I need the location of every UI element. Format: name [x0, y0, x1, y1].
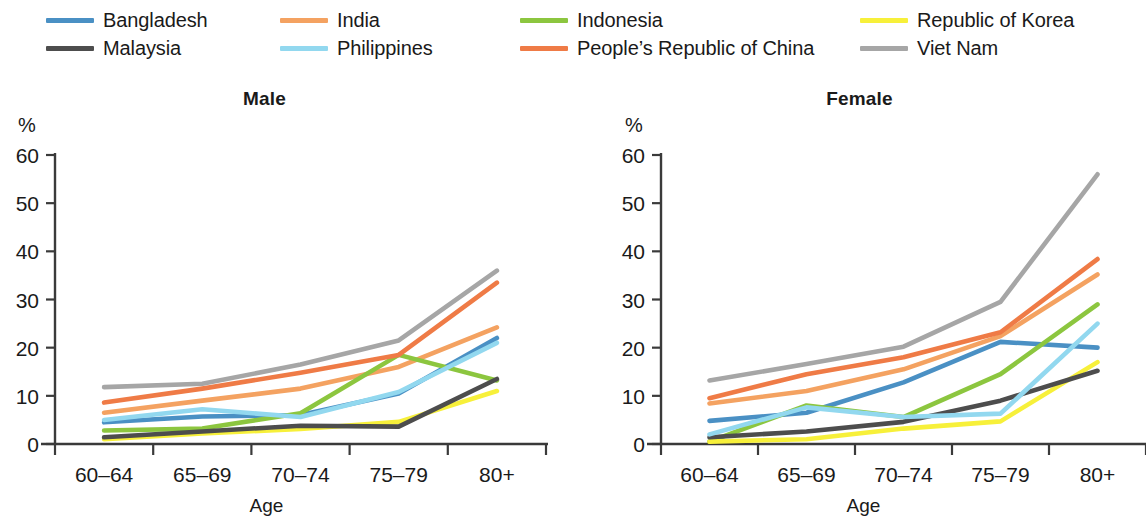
- legend-swatch-india: [280, 18, 328, 23]
- legend-swatch-peoples-republic-of-china: [520, 46, 568, 51]
- plot-area-female: 010203040506060–6465–6970–7475–7980+: [573, 86, 1146, 519]
- series-line-bangladesh: [710, 342, 1098, 421]
- legend-label-philippines: Philippines: [337, 38, 433, 58]
- legend-item-indonesia: Indonesia: [520, 10, 860, 30]
- legend-item-republic-of-korea: Republic of Korea: [860, 10, 1140, 30]
- legend-item-peoples-republic-of-china: People’s Republic of China: [520, 38, 860, 58]
- legend-label-viet-nam: Viet Nam: [917, 38, 998, 58]
- y-tick-label: 50: [622, 192, 645, 215]
- x-tick-label: 70–74: [271, 463, 330, 486]
- series-line-viet-nam: [710, 174, 1098, 380]
- legend-item-bangladesh: Bangladesh: [46, 10, 280, 30]
- legend-swatch-philippines: [280, 46, 328, 51]
- legend-item-malaysia: Malaysia: [46, 38, 280, 58]
- x-tick-label: 70–74: [874, 463, 933, 486]
- x-tick-label: 60–64: [75, 463, 134, 486]
- y-tick-label: 50: [16, 192, 39, 215]
- legend-row: Malaysia Philippines People’s Republic o…: [0, 34, 1146, 62]
- chart-panel-female: Female % 010203040506060–6465–6970–7475–…: [573, 86, 1146, 519]
- y-tick-label: 40: [16, 240, 39, 263]
- legend-swatch-malaysia: [46, 46, 94, 51]
- legend-label-india: India: [337, 10, 380, 30]
- series-line-republic-of-korea: [710, 362, 1098, 441]
- x-tick-label: 65–69: [777, 463, 835, 486]
- legend-label-malaysia: Malaysia: [103, 38, 181, 58]
- legend-label-bangladesh: Bangladesh: [103, 10, 208, 30]
- legend-swatch-indonesia: [520, 18, 568, 23]
- y-tick-label: 20: [16, 337, 39, 360]
- x-tick-label: 75–79: [369, 463, 427, 486]
- y-tick-label: 10: [16, 385, 39, 408]
- x-axis-title-male: Age: [0, 495, 553, 517]
- x-tick-label: 60–64: [680, 463, 739, 486]
- series-line-philippines: [710, 324, 1098, 435]
- legend-item-viet-nam: Viet Nam: [860, 38, 1140, 58]
- legend-item-india: India: [280, 10, 520, 30]
- y-tick-label: 0: [27, 433, 39, 456]
- y-tick-label: 60: [622, 144, 645, 167]
- y-tick-label: 30: [622, 289, 645, 312]
- y-tick-label: 30: [16, 289, 39, 312]
- y-tick-label: 0: [633, 433, 645, 456]
- legend-label-peoples-republic-of-china: People’s Republic of China: [577, 38, 814, 58]
- x-axis-title-female: Age: [577, 495, 1146, 517]
- legend-item-philippines: Philippines: [280, 38, 520, 58]
- legend-row: Bangladesh India Indonesia Republic of K…: [0, 6, 1146, 34]
- chart-legend: Bangladesh India Indonesia Republic of K…: [0, 0, 1146, 76]
- x-tick-label: 65–69: [173, 463, 231, 486]
- legend-label-republic-of-korea: Republic of Korea: [917, 10, 1074, 30]
- legend-swatch-republic-of-korea: [860, 18, 908, 23]
- legend-swatch-viet-nam: [860, 46, 908, 51]
- plot-area-male: 010203040506060–6465–6970–7475–7980+: [0, 86, 573, 519]
- y-tick-label: 20: [622, 337, 645, 360]
- y-tick-label: 10: [622, 385, 645, 408]
- legend-swatch-bangladesh: [46, 18, 94, 23]
- x-tick-label: 80+: [479, 463, 515, 486]
- chart-panel-male: Male % 010203040506060–6465–6970–7475–79…: [0, 86, 573, 519]
- y-tick-label: 40: [622, 240, 645, 263]
- y-tick-label: 60: [16, 144, 39, 167]
- x-tick-label: 80+: [1080, 463, 1116, 486]
- legend-label-indonesia: Indonesia: [577, 10, 663, 30]
- x-tick-label: 75–79: [971, 463, 1029, 486]
